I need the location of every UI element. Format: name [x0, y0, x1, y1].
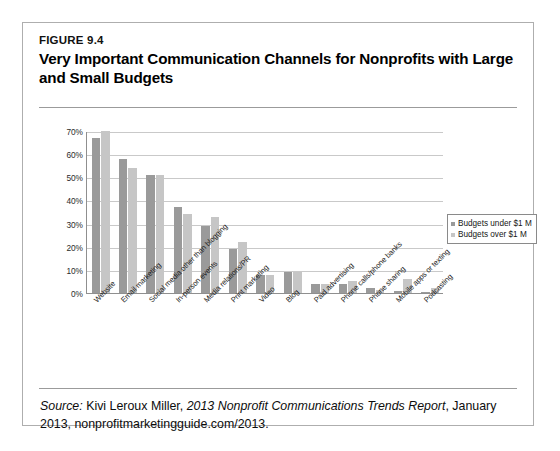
y-axis-tick-label: 50%	[49, 174, 83, 182]
chart-legend: Budgets under $1 MBudgets over $1 M	[447, 214, 537, 244]
figure-card: FIGURE 9.4 Very Important Communication …	[22, 22, 534, 426]
legend-item: Budgets over $1 M	[451, 229, 532, 240]
figure-number: FIGURE 9.4	[39, 33, 519, 47]
y-axis-tick-label: 10%	[49, 267, 83, 275]
bar	[156, 175, 165, 293]
figure-title: Very Important Communication Channels fo…	[39, 49, 519, 87]
source-divider	[39, 388, 517, 389]
bar-group	[117, 132, 144, 293]
legend-swatch	[451, 233, 455, 237]
legend-item: Budgets under $1 M	[451, 218, 532, 229]
legend-swatch	[451, 222, 455, 226]
source-label: Source:	[40, 399, 83, 413]
bar	[119, 159, 128, 293]
bar-group	[282, 132, 309, 293]
bar-group	[90, 132, 117, 293]
x-axis-labels: WebsiteEmail marketingSocial media other…	[86, 294, 466, 389]
bar	[128, 168, 137, 293]
y-axis-tick-label: 60%	[49, 151, 83, 159]
bar-chart: 70%60%50%40%30%20%10%0% WebsiteEmail mar…	[23, 113, 533, 388]
source-report-title: 2013 Nonprofit Communications Trends Rep…	[187, 399, 446, 413]
y-axis-tick-label: 0%	[49, 290, 83, 298]
figure-header: FIGURE 9.4 Very Important Communication …	[39, 33, 519, 87]
y-axis-tick-label: 40%	[49, 197, 83, 205]
y-axis-tick-label: 70%	[49, 128, 83, 136]
source-author: Kivi Leroux Miller,	[83, 399, 187, 413]
header-divider	[39, 107, 517, 108]
legend-label: Budgets under $1 M	[458, 218, 532, 229]
bar-group	[310, 132, 337, 293]
bar	[101, 131, 110, 293]
y-axis-tick-label: 20%	[49, 244, 83, 252]
bar	[92, 138, 101, 293]
y-axis-tick-label: 30%	[49, 221, 83, 229]
y-axis: 70%60%50%40%30%20%10%0%	[43, 132, 83, 294]
legend-label: Budgets over $1 M	[458, 229, 527, 240]
source-note: Source: Kivi Leroux Miller, 2013 Nonprof…	[40, 397, 518, 433]
